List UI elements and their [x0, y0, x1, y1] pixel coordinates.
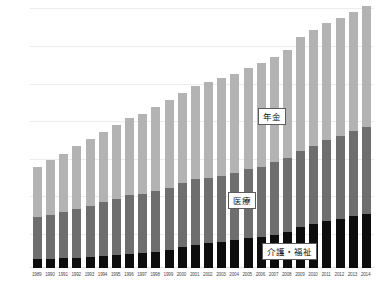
x-axis-tick-label: 2003 [216, 271, 225, 278]
stacked-bar-chart: 1989199019911992199319941995199619971998… [0, 0, 385, 298]
bar-segment [296, 37, 305, 151]
bar-segment [72, 258, 81, 268]
bar-segment [86, 139, 95, 205]
bar-segment [59, 154, 68, 213]
bar-column [72, 4, 81, 268]
x-axis-tick-label: 2011 [321, 271, 330, 278]
bar-segment [46, 259, 55, 268]
series-label-care-welfare: 介護・福祉 [262, 243, 317, 260]
series-label-pension: 年金 [258, 108, 286, 125]
x-axis-tick-label: 2008 [282, 271, 291, 278]
x-axis-tick-label: 1999 [164, 271, 173, 278]
x-axis-tick-label: 1990 [45, 271, 54, 278]
bar-segment [230, 240, 239, 268]
bar-segment [244, 238, 253, 268]
bar-column [165, 4, 174, 268]
bar-segment [349, 216, 358, 268]
bar-segment [33, 167, 42, 218]
series-label-medical: 医療 [228, 192, 256, 209]
bar-segment [46, 160, 55, 215]
bar-segment [86, 206, 95, 257]
bar-column [309, 4, 318, 268]
bar-segment [99, 202, 108, 256]
bar-segment [151, 252, 160, 268]
bar-segment [362, 214, 371, 268]
bar-segment [99, 256, 108, 268]
bar-column [349, 4, 358, 268]
bar-segment [125, 195, 134, 254]
bar-segment [283, 50, 292, 158]
bar-segment [112, 125, 121, 199]
bar-column [257, 4, 266, 268]
bar-column [217, 4, 226, 268]
bar-column [33, 4, 42, 268]
x-axis-tick-label: 2014 [361, 271, 370, 278]
bar-segment [204, 82, 213, 178]
bar-segment [165, 250, 174, 268]
x-axis-tick-labels: 1989199019911992199319941995199619971998… [30, 271, 374, 278]
bar-segment [178, 93, 187, 184]
bar-segment [191, 245, 200, 268]
bar-segment [165, 100, 174, 188]
plot-area [30, 4, 374, 268]
x-axis-tick-label: 1996 [124, 271, 133, 278]
bar-column [46, 4, 55, 268]
bar-segment [125, 254, 134, 268]
bar-column [191, 4, 200, 268]
bar-column [138, 4, 147, 268]
x-axis-tick-label: 1995 [111, 271, 120, 278]
bar-segment [138, 114, 147, 195]
x-axis-tick-label: 1991 [58, 271, 67, 278]
bar-column [112, 4, 121, 268]
bar-segment [178, 247, 187, 268]
x-axis-tick-label: 2004 [229, 271, 238, 278]
x-axis-tick-label: 2002 [203, 271, 212, 278]
bar-segment [283, 158, 292, 232]
bar-segment [257, 167, 266, 237]
x-axis-tick-label: 2006 [256, 271, 265, 278]
x-axis-tick-label: 2012 [335, 271, 344, 278]
bar-segment [46, 215, 55, 259]
bar-segment [217, 176, 226, 242]
bar-segment [336, 219, 345, 268]
x-axis-tick-label: 1998 [150, 271, 159, 278]
bar-segment [322, 221, 331, 268]
bar-group [30, 4, 374, 268]
x-axis-tick-label: 2005 [243, 271, 252, 278]
bar-segment [309, 146, 318, 224]
bar-column [59, 4, 68, 268]
bar-segment [362, 6, 371, 127]
bar-segment [336, 136, 345, 219]
bar-segment [151, 191, 160, 252]
bar-segment [138, 253, 147, 268]
bar-segment [72, 209, 81, 258]
bar-segment [191, 179, 200, 245]
bar-column [362, 4, 371, 268]
bar-column [296, 4, 305, 268]
bar-column [230, 4, 239, 268]
bar-column [336, 4, 345, 268]
x-axis-tick-label: 2013 [348, 271, 357, 278]
bar-segment [322, 23, 331, 140]
bar-column [86, 4, 95, 268]
bar-segment [204, 178, 213, 243]
x-axis-tick-label: 1989 [32, 271, 41, 278]
bar-segment [72, 146, 81, 208]
x-axis-tick-label: 1993 [85, 271, 94, 278]
bar-segment [336, 18, 345, 136]
bar-segment [362, 127, 371, 214]
bar-segment [270, 162, 279, 234]
bar-segment [191, 86, 200, 179]
bar-segment [178, 183, 187, 247]
bar-segment [99, 132, 108, 202]
x-axis-tick-label: 2001 [190, 271, 199, 278]
bar-segment [244, 68, 253, 169]
bar-column [244, 4, 253, 268]
bar-segment [112, 255, 121, 268]
bar-segment [349, 12, 358, 132]
bar-segment [33, 259, 42, 268]
bar-segment [125, 118, 134, 195]
x-axis-tick-label: 2000 [177, 271, 186, 278]
bar-segment [204, 243, 213, 268]
bar-column [283, 4, 292, 268]
